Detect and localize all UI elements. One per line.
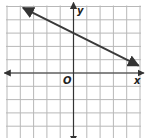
y-axis-label: y: [77, 5, 84, 16]
axes: [4, 3, 144, 138]
origin-label: O: [63, 75, 72, 86]
x-axis-label: x: [133, 75, 141, 86]
plotted-line: [23, 8, 139, 66]
coordinate-plane: y x O: [0, 0, 146, 138]
